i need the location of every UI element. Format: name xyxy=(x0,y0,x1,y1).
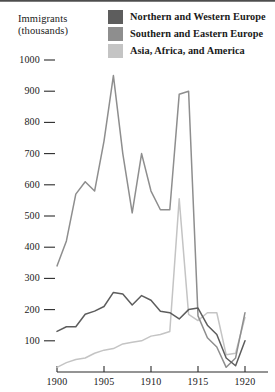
y-axis-tick-label: 700 xyxy=(0,148,40,159)
x-axis-tick-label: 1920 xyxy=(225,376,265,387)
y-axis-tick-label: 900 xyxy=(0,85,40,96)
y-axis-tick-label: 300 xyxy=(0,272,40,283)
y-axis-tick-label: 100 xyxy=(0,335,40,346)
x-axis-tick-label: 1905 xyxy=(84,376,124,387)
x-axis-tick-label: 1900 xyxy=(37,376,77,387)
line-chart-plot xyxy=(0,0,275,392)
y-axis-tick-label: 400 xyxy=(0,241,40,252)
y-axis-tick-label: 600 xyxy=(0,179,40,190)
series-line-1 xyxy=(57,76,245,368)
series-line-2 xyxy=(57,199,245,367)
x-axis-tick-label: 1910 xyxy=(131,376,171,387)
series-line-0 xyxy=(57,292,245,365)
y-axis-tick-label: 1000 xyxy=(0,54,40,65)
x-axis-tick-label: 1915 xyxy=(178,376,218,387)
y-axis-tick-label: 200 xyxy=(0,304,40,315)
y-axis-tick-label: 800 xyxy=(0,116,40,127)
y-axis-tick-label: 500 xyxy=(0,210,40,221)
